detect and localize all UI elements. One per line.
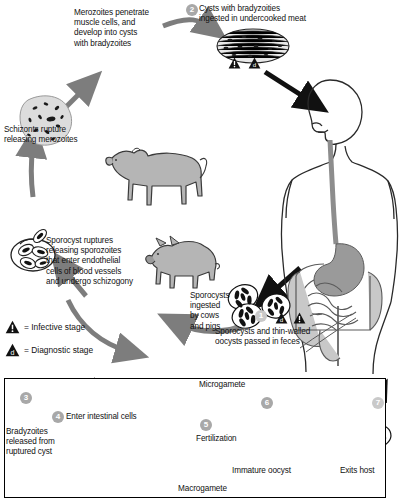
legend-diagnostic-icon: d xyxy=(5,343,20,357)
label-fertilization: Fertilization xyxy=(196,434,237,444)
legend-diagnostic-label: = Diagnostic stage xyxy=(24,345,93,355)
pig-illustration xyxy=(146,236,220,288)
svg-text:d: d xyxy=(253,61,257,68)
label-merozoites-penetrate: Merozoites penetrate muscle cells, and d… xyxy=(74,8,180,49)
label-sporocysts-passed: Sporocysts and thin-walled oocysts passe… xyxy=(215,327,365,347)
infective-stage-icon xyxy=(228,57,241,69)
arrow-schizont-to-muscle xyxy=(50,85,88,123)
diagnostic-stage-icon: d xyxy=(248,57,261,69)
feces-diagnostic-stage-icon: d xyxy=(275,312,288,324)
label-bradyzoites-released: Bradyzoites released from ruptured cyst xyxy=(6,427,76,458)
arrow-meat-to-mouth xyxy=(265,72,312,102)
life-cycle-diagram: d d d Merozoites penetrate muscle cells,… xyxy=(0,0,400,504)
svg-text:d: d xyxy=(280,316,284,323)
label-immature-oocyst: Immature oocyst xyxy=(232,466,291,476)
step-badge-6: 6 xyxy=(261,397,273,409)
step-badge-5: 5 xyxy=(200,419,212,431)
label-enter-intestinal-cells: Enter intestinal cells xyxy=(66,412,174,422)
step-badge-2: 2 xyxy=(186,4,198,16)
svg-text:d: d xyxy=(11,349,15,357)
label-microgamete: Microgamete xyxy=(199,380,245,390)
arrow-feces-down xyxy=(268,268,300,296)
step-badge-7: 7 xyxy=(372,397,384,409)
step-badge-4: 4 xyxy=(52,411,64,423)
feces-infective-stage-icon xyxy=(293,312,306,324)
label-sporocysts-ingested: Sporocysts ingested by cows and pigs xyxy=(190,291,252,332)
label-schizonts-rupture: Schizonts rupture releasing merozoites xyxy=(4,125,108,145)
label-exits-host: Exits host xyxy=(340,466,375,476)
legend-infective-icon xyxy=(5,320,20,334)
cow-illustration xyxy=(106,148,207,205)
step-badge-1: 1 xyxy=(255,310,267,322)
legend-infective-label: = Infective stage xyxy=(24,322,85,332)
label-sporocyst-ruptures: Sporocyst ruptures releasing sporozoites… xyxy=(46,236,150,287)
label-cysts-ingested: Cysts with bradyzoities ingested in unde… xyxy=(199,4,384,24)
arrow-sporocyst-to-schizont xyxy=(31,143,33,197)
step-badge-3: 3 xyxy=(20,392,32,404)
label-macrogamete: Macrogamete xyxy=(178,484,227,494)
